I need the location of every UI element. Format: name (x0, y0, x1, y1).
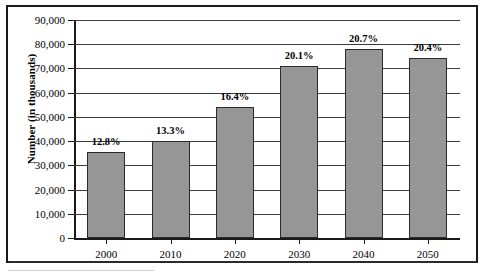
gridline (74, 141, 460, 142)
y-axis-tick (68, 44, 74, 45)
y-axis-line (74, 20, 76, 238)
y-axis-tick (68, 190, 74, 191)
y-axis-tick-label: 80,000 (35, 38, 65, 50)
gridline (74, 165, 460, 166)
x-axis-tick-label: 2030 (288, 248, 310, 260)
bar-value-label: 13.3% (156, 125, 185, 136)
y-axis-tick-label: 40,000 (35, 135, 65, 147)
bar-value-label: 12.8% (92, 136, 121, 147)
x-axis-tick (106, 238, 107, 244)
x-axis-tick-label: 2050 (417, 248, 439, 260)
y-axis-tick (68, 214, 74, 215)
gridline (74, 68, 460, 69)
x-axis-tick (235, 238, 236, 244)
y-axis-tick-label: 0 (60, 232, 66, 244)
x-axis-tick-label: 2040 (353, 248, 375, 260)
bar (345, 49, 383, 238)
y-axis-tick (68, 238, 74, 239)
chart-figure: Number (in thousands) 010,00020,00030,00… (0, 0, 483, 277)
gridline (74, 117, 460, 118)
y-axis-tick-label: 50,000 (35, 111, 65, 123)
y-axis-tick (68, 165, 74, 166)
bar (87, 152, 125, 238)
chart-frame: Number (in thousands) 010,00020,00030,00… (6, 5, 478, 263)
y-axis-tick (68, 68, 74, 69)
y-axis-tick (68, 93, 74, 94)
y-axis-tick-label: 30,000 (35, 159, 65, 171)
bar-value-label: 20.4% (413, 42, 442, 53)
y-axis-tick-label: 10,000 (35, 208, 65, 220)
y-axis-tick (68, 20, 74, 21)
x-axis-tick (428, 238, 429, 244)
x-axis-tick (171, 238, 172, 244)
gridline (74, 44, 460, 45)
y-axis-tick (68, 141, 74, 142)
bar-value-label: 20.1% (285, 50, 314, 61)
y-axis-tick (68, 117, 74, 118)
bar (216, 107, 254, 238)
bar (152, 141, 190, 238)
x-axis-line (74, 238, 460, 240)
plot-area: 010,00020,00030,00040,00050,00060,00070,… (74, 20, 460, 238)
y-axis-tick-label: 70,000 (35, 62, 65, 74)
caption-box-edge (8, 270, 154, 271)
gridline (74, 20, 460, 21)
x-axis-tick (364, 238, 365, 244)
x-axis-tick-label: 2000 (95, 248, 117, 260)
bar (280, 66, 318, 238)
gridline (74, 214, 460, 215)
y-axis-tick-label: 90,000 (35, 14, 65, 26)
bar (409, 58, 447, 238)
bar-value-label: 16.4% (220, 91, 249, 102)
x-axis-tick-label: 2020 (224, 248, 246, 260)
bar-value-label: 20.7% (349, 33, 378, 44)
x-axis-tick-label: 2010 (160, 248, 182, 260)
y-axis-tick-label: 20,000 (35, 184, 65, 196)
gridline (74, 93, 460, 94)
x-axis-tick (299, 238, 300, 244)
y-axis-tick-label: 60,000 (35, 87, 65, 99)
gridline (74, 190, 460, 191)
